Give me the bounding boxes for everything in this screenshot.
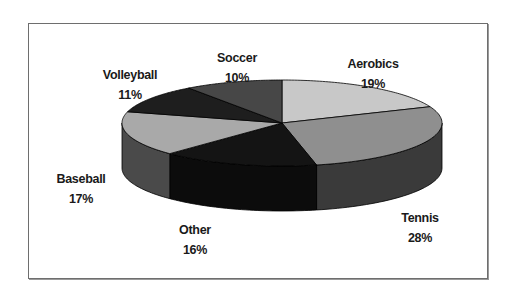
label-name: Soccer [217,48,257,68]
label-soccer: Soccer 10% [217,48,257,88]
label-pct: 28% [401,228,439,248]
label-pct: 10% [217,68,257,88]
label-name: Tennis [401,208,439,228]
label-pct: 16% [179,240,211,260]
label-name: Baseball [56,169,105,189]
label-tennis: Tennis 28% [401,208,439,248]
label-other: Other 16% [179,220,211,260]
label-pct: 19% [347,74,398,94]
label-volleyball: Volleyball 11% [103,65,157,105]
label-pct: 11% [103,85,157,105]
label-pct: 17% [56,189,105,209]
label-name: Other [179,220,211,240]
label-name: Aerobics [347,54,398,74]
label-aerobics: Aerobics 19% [347,54,398,94]
pie-chart-3d [0,0,506,292]
label-baseball: Baseball 17% [56,169,105,209]
label-name: Volleyball [103,65,157,85]
